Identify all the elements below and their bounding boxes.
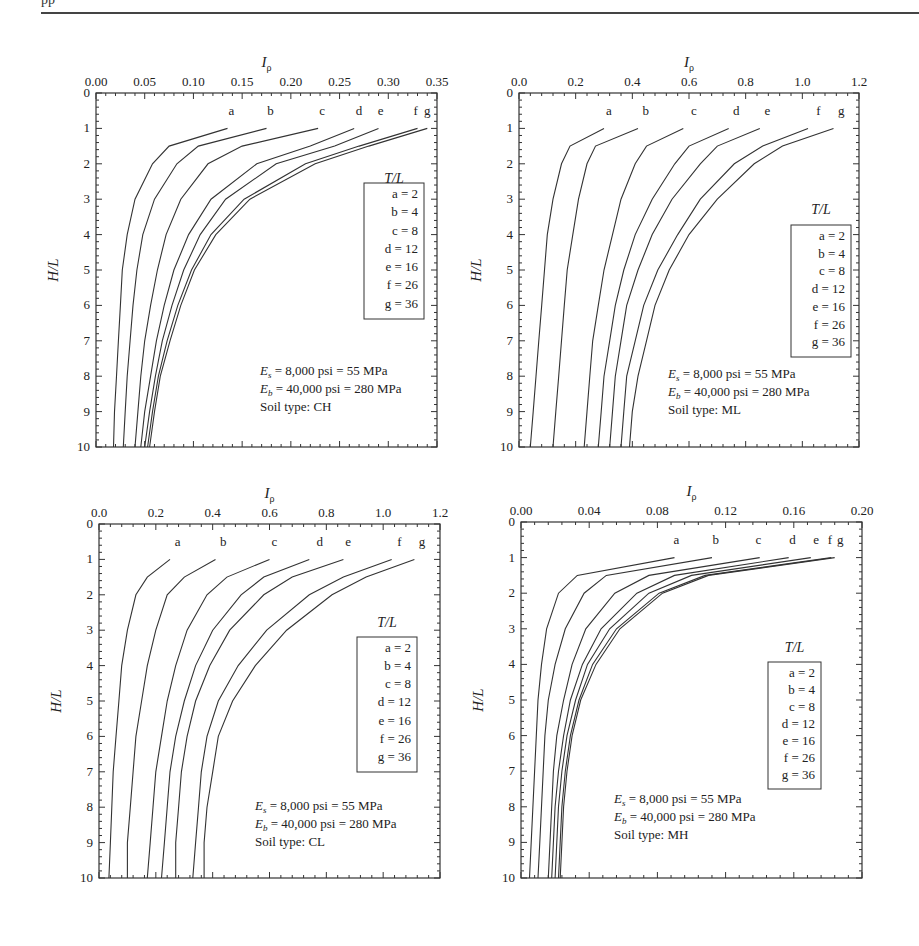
curve-label-c: c [271,534,277,549]
y-tick-label: 5 [507,262,514,277]
curve-label-b: b [642,103,649,118]
legend-item: g = 36 [378,749,412,764]
legend-item: b = 4 [818,246,845,261]
curve-label-f: f [397,534,402,549]
x-tick-label: 0.6 [681,74,698,89]
y-tick-label: 8 [507,368,514,383]
y-tick-label: 3 [87,622,94,637]
chart-panel-top-left: 0.000.050.100.150.200.250.300.3501234567… [45,54,448,454]
y-tick-label: 8 [87,799,94,814]
curve-label-e: e [765,103,771,118]
curve-label-a: a [674,532,680,547]
y-tick-label: 4 [507,227,514,242]
legend-item: b = 4 [391,204,418,219]
x-tick-label: 1.0 [794,74,810,89]
curve-label-a: a [229,103,235,118]
curve-label-c: c [755,532,761,547]
annotation-line: Es = 8,000 psi = 55 MPa [667,366,796,383]
x-tick-label: 0.04 [578,503,601,518]
x-axis-label: Iρ [261,54,272,73]
y-tick-label: 5 [509,692,516,707]
y-tick-label: 3 [84,191,91,206]
y-tick-label: 7 [507,333,514,348]
curve-label-f: f [413,103,418,118]
legend-item: d = 12 [782,716,815,731]
y-tick-label: 9 [84,404,91,419]
x-tick-label: 1.0 [375,505,391,520]
legend-item: f = 26 [814,317,846,332]
annotation-line: Soil type: CH [260,399,332,414]
x-tick-label: 1.2 [432,505,448,520]
legend-item: b = 4 [788,682,815,697]
annotation-line: Eb = 40,000 psi = 280 MPa [259,381,402,398]
x-axis-label: Iρ [686,483,697,502]
y-tick-label: 2 [87,587,94,602]
chart-panel-bottom-left: 0.00.20.40.60.81.01.2012345678910IρH/Lab… [48,485,448,885]
y-tick-label: 2 [84,156,91,171]
x-tick-label: 0.2 [568,74,584,89]
y-axis-label: H/L [48,689,64,713]
legend-item: c = 8 [819,263,845,278]
y-tick-label: 1 [507,120,514,135]
curve-label-b: b [220,534,227,549]
curve-label-g: g [838,103,845,118]
x-tick-label: 0.6 [261,505,278,520]
curve-label-b: b [267,103,274,118]
legend-item: f = 26 [387,277,419,292]
legend-item: g = 36 [782,767,816,782]
legend-item: e = 16 [782,733,815,748]
y-axis-label: H/L [470,688,486,712]
legend-item: c = 8 [789,699,815,714]
curve-e [610,128,760,447]
legend-item: d = 12 [385,241,418,256]
y-tick-label: 10 [80,870,93,885]
curve-label-d: d [789,532,796,547]
x-tick-label: 0.4 [205,505,222,520]
x-tick-label: 0.25 [328,74,351,89]
annotation-line: Soil type: CL [255,834,325,849]
curve-label-g: g [419,534,426,549]
x-tick-label: 0.8 [318,505,334,520]
legend-item: a = 2 [392,186,418,201]
x-axis-label: Iρ [683,54,694,73]
annotation-line: Eb = 40,000 psi = 280 MPa [667,384,810,401]
y-axis-label: H/L [468,258,484,282]
legend-item: a = 2 [789,665,815,680]
y-tick-label: 6 [509,728,516,743]
legend-title: T/L [811,202,831,217]
y-tick-label: 0 [509,514,516,529]
y-tick-label: 3 [507,191,514,206]
chart-figure: 0.000.050.100.150.200.250.300.3501234567… [0,0,919,946]
y-tick-label: 6 [84,297,91,312]
curve-label-d: d [356,103,363,118]
curve-d [598,128,728,447]
y-tick-label: 7 [84,333,91,348]
curve-label-a: a [606,103,612,118]
curve-label-f: f [816,103,821,118]
y-tick-label: 7 [509,763,516,778]
legend-item: d = 12 [812,281,845,296]
y-tick-label: 1 [84,120,91,135]
curve-label-c: c [319,103,325,118]
legend-item: e = 16 [385,259,418,274]
curve-b [127,559,215,878]
annotation-line: Eb = 40,000 psi = 280 MPa [613,809,756,826]
y-tick-label: 3 [509,621,516,636]
legend-title: T/L [377,615,397,630]
x-tick-label: 0.20 [279,74,302,89]
y-tick-label: 9 [507,404,514,419]
legend-item: g = 36 [385,296,419,311]
annotation-line: Soil type: MH [614,827,688,842]
x-tick-label: 0.08 [646,503,669,518]
y-tick-label: 10 [502,870,515,885]
y-tick-label: 6 [87,728,94,743]
x-tick-label: 0.30 [377,74,400,89]
annotation-line: Es = 8,000 psi = 55 MPa [254,798,383,815]
curve-a [109,559,170,878]
y-tick-label: 10 [77,439,90,454]
curve-label-a: a [175,534,181,549]
curve-label-e: e [378,103,384,118]
legend-item: e = 16 [378,713,411,728]
chart-panel-bottom-right: 0.000.040.080.120.160.20012345678910IρH/… [470,483,873,885]
y-tick-label: 4 [87,658,94,673]
